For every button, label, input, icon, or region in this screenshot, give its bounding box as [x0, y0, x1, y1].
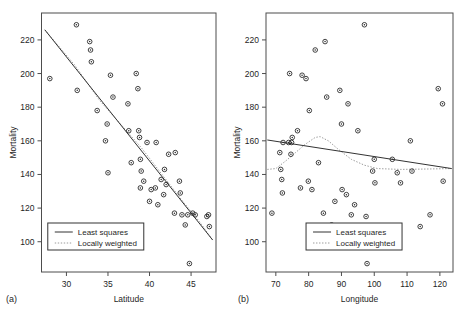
- data-point-center: [105, 140, 107, 142]
- data-point-center: [179, 180, 181, 182]
- data-point-center: [305, 78, 307, 80]
- y-axis-title: Mortality: [232, 126, 242, 159]
- data-point-center: [318, 162, 320, 164]
- data-point-center: [374, 182, 376, 184]
- data-point-center: [91, 61, 93, 63]
- data-point-center: [354, 204, 356, 206]
- data-point-center: [49, 78, 51, 80]
- y-tick-label: 100: [245, 237, 259, 247]
- x-tick-label: 90: [337, 279, 347, 289]
- data-point-center: [185, 224, 187, 226]
- data-point-center: [112, 96, 114, 98]
- scatter-panel-longitude: 100120140160180200220708090100110120Long…: [232, 0, 464, 321]
- x-tick-label: 70: [271, 279, 281, 289]
- legend-label-locally-weighted: Locally weighted: [78, 239, 137, 248]
- data-point-center: [437, 88, 439, 90]
- data-point-center: [175, 152, 177, 154]
- data-point-center: [106, 123, 108, 125]
- data-point-center: [429, 214, 431, 216]
- x-axis-title: Latitude: [114, 294, 145, 304]
- data-point-center: [280, 169, 282, 171]
- least-squares-line: [267, 140, 451, 169]
- caption-fragment: [0, 314, 464, 321]
- data-point-center: [341, 123, 343, 125]
- data-point-center: [396, 172, 398, 174]
- data-point-center: [143, 180, 145, 182]
- data-point-center: [168, 154, 170, 156]
- data-point-center: [140, 159, 142, 161]
- data-point-center: [372, 170, 374, 172]
- data-point-center: [334, 201, 336, 203]
- data-point-center: [341, 189, 343, 191]
- data-point-center: [365, 216, 367, 218]
- data-point-center: [311, 189, 313, 191]
- y-tick-label: 200: [20, 69, 34, 79]
- data-point-center: [271, 212, 273, 214]
- data-point-center: [135, 73, 137, 75]
- x-tick-label: 120: [433, 279, 447, 289]
- y-tick-label: 140: [20, 169, 34, 179]
- data-point-center: [90, 49, 92, 51]
- least-squares-line: [45, 30, 213, 240]
- data-point-center: [130, 162, 132, 164]
- panel-tag: (a): [6, 294, 17, 304]
- data-point-center: [282, 142, 284, 144]
- data-point-center: [289, 73, 291, 75]
- panel-tag: (b): [238, 294, 249, 304]
- data-point-center: [442, 103, 444, 105]
- data-point-center: [366, 263, 368, 265]
- data-point-center: [127, 103, 129, 105]
- data-point-center: [146, 142, 148, 144]
- x-tick-label: 40: [145, 279, 155, 289]
- data-point-center: [174, 212, 176, 214]
- data-point-center: [374, 159, 376, 161]
- data-point-center: [326, 96, 328, 98]
- data-point-center: [194, 214, 196, 216]
- y-tick-label: 120: [245, 203, 259, 213]
- plot-svg-latitude: 10012014016018020022030354045LatitudeMor…: [0, 0, 232, 321]
- data-point-center: [76, 90, 78, 92]
- data-point-center: [282, 192, 284, 194]
- data-point-center: [187, 214, 189, 216]
- data-point-center: [180, 192, 182, 194]
- data-point-center: [150, 189, 152, 191]
- data-point-center: [279, 152, 281, 154]
- data-point-center: [164, 169, 166, 171]
- data-point-center: [96, 110, 98, 112]
- data-point-center: [281, 179, 283, 181]
- y-tick-label: 180: [245, 102, 259, 112]
- y-tick-label: 200: [245, 69, 259, 79]
- x-tick-label: 30: [62, 279, 72, 289]
- legend-label-locally-weighted: Locally weighted: [336, 239, 395, 248]
- data-point-center: [149, 201, 151, 203]
- data-point-center: [157, 204, 159, 206]
- y-tick-label: 220: [245, 35, 259, 45]
- data-point-center: [339, 90, 341, 92]
- data-point-center: [292, 137, 294, 139]
- data-point-center: [139, 137, 141, 139]
- data-point-center: [323, 212, 325, 214]
- data-point-center: [309, 110, 311, 112]
- data-point-center: [364, 24, 366, 26]
- data-point-center: [324, 41, 326, 43]
- data-point-center: [155, 187, 157, 189]
- data-point-center: [165, 184, 167, 186]
- data-point-center: [419, 226, 421, 228]
- data-point-center: [208, 214, 210, 216]
- x-tick-label: 45: [186, 279, 196, 289]
- x-tick-label: 35: [103, 279, 113, 289]
- data-point-center: [357, 130, 359, 132]
- data-point-center: [163, 194, 165, 196]
- data-point-center: [301, 74, 303, 76]
- data-point-center: [442, 180, 444, 182]
- x-tick-label: 80: [304, 279, 314, 289]
- data-point-center: [392, 159, 394, 161]
- legend-label-least-squares: Least squares: [336, 228, 386, 237]
- data-point-center: [297, 130, 299, 132]
- data-point-center: [128, 130, 130, 132]
- data-point-center: [400, 182, 402, 184]
- data-point-center: [155, 142, 157, 144]
- data-point-center: [140, 170, 142, 172]
- data-point-center: [76, 24, 78, 26]
- y-axis-title: Mortality: [8, 126, 18, 159]
